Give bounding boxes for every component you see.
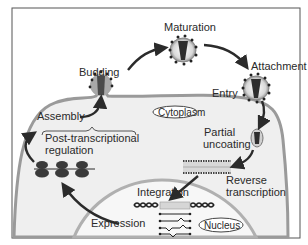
label-nucleus: Nucleus [204, 220, 240, 231]
label-transcription: transcription [226, 186, 286, 198]
label-assembly: Assembly [37, 110, 85, 122]
label-entry: Entry [212, 87, 238, 99]
label-post-transcriptional: Post-transcriptional [45, 132, 139, 144]
label-partial: Partial [204, 126, 235, 138]
label-attachment: Attachment [251, 60, 307, 72]
polysome-ribosomes [34, 161, 95, 178]
label-maturation: Maturation [164, 21, 216, 33]
label-uncoating: uncoating [203, 138, 251, 150]
label-regulation: regulation [45, 144, 93, 156]
reverse-transcription-dna [183, 161, 231, 173]
label-budding: Budding [79, 66, 119, 78]
uncoating-core [251, 129, 263, 147]
label-cytoplasm: Cytoplasm [158, 107, 205, 118]
label-reverse: Reverse [226, 174, 267, 186]
label-expression: Expression [91, 217, 145, 229]
label-integration: Integration [137, 186, 189, 198]
retrovirus-life-cycle-diagram: Budding Maturation Attachment Entry Part… [0, 0, 308, 245]
